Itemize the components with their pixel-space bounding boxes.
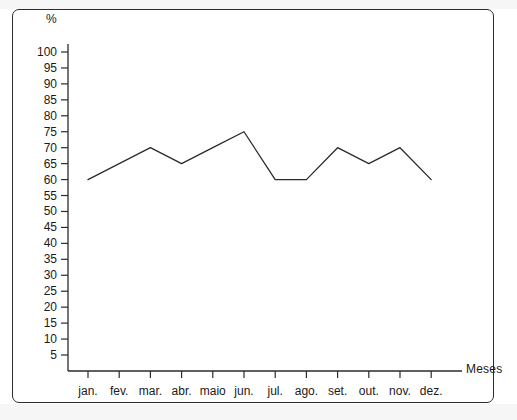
y-axis-tick-label: 100: [25, 46, 57, 58]
x-axis-ticks: [88, 371, 431, 378]
y-axis-tick-label: 40: [25, 237, 57, 249]
y-axis-tick-label: 95: [25, 62, 57, 74]
y-axis-tick-label: 35: [25, 253, 57, 265]
y-axis-tick-label: 15: [25, 317, 57, 329]
y-axis-tick-label: 45: [25, 221, 57, 233]
y-axis-tick-label: 65: [25, 158, 57, 170]
y-axis-tick-label: 20: [25, 301, 57, 313]
line-chart-plot: [0, 0, 517, 420]
y-axis-ticks: [61, 52, 68, 355]
y-axis: [61, 44, 68, 371]
y-axis-tick-label: 55: [25, 190, 57, 202]
y-axis-tick-label: 60: [25, 174, 57, 186]
x-axis-tick-label: dez.: [409, 385, 453, 397]
y-axis-tick-label: 5: [25, 349, 57, 361]
y-axis-tick-label: 30: [25, 269, 57, 281]
y-axis-tick-label: 50: [25, 205, 57, 217]
y-axis-tick-label: 75: [25, 126, 57, 138]
y-axis-tick-label: 80: [25, 110, 57, 122]
x-axis: [68, 371, 462, 378]
data-series-line: [88, 132, 431, 180]
y-axis-tick-label: 85: [25, 94, 57, 106]
y-axis-tick-label: 90: [25, 78, 57, 90]
y-axis-tick-label: 70: [25, 142, 57, 154]
y-axis-tick-label: 10: [25, 333, 57, 345]
y-axis-tick-label: 25: [25, 285, 57, 297]
chart-figure: % Meses 10095908580757065605550454035302…: [0, 0, 517, 420]
